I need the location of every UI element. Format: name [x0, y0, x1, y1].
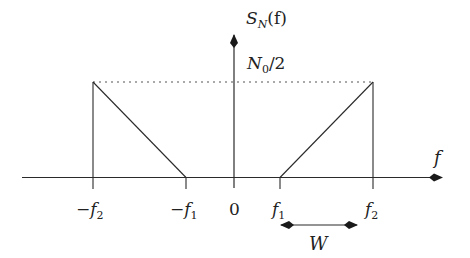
tick-label-zero: 0: [229, 199, 240, 219]
tick-label-neg-f2: −f2: [76, 199, 104, 222]
psd-axis-label: SN(f): [246, 8, 287, 31]
tick-label-f2: f2: [363, 199, 378, 222]
n0-half-label: N0/2: [246, 53, 285, 76]
tick-label-f1: f1: [270, 199, 285, 222]
right-spectrum-triangle: [280, 82, 373, 189]
bandwidth-label: W: [309, 233, 329, 254]
psd-diagram: SN(f) N0/2 f −f2 −f1 0 f1 f2 W: [0, 0, 470, 258]
tick-label-neg-f1: −f1: [170, 199, 198, 222]
frequency-axis-label: f: [432, 147, 444, 168]
left-spectrum-triangle: [93, 82, 186, 189]
